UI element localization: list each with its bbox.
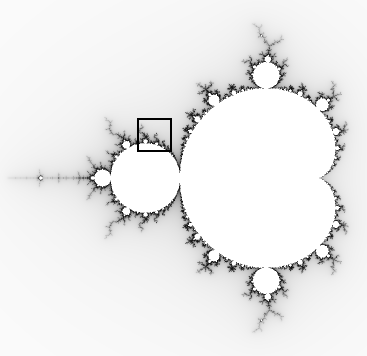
mandelbrot-set-image <box>0 0 367 356</box>
zoom-region-highlight-box <box>137 118 172 152</box>
